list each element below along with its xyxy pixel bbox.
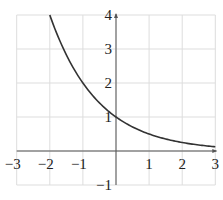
x-tick-label: −1: [71, 156, 87, 172]
y-axis-tick-labels: 4321−1: [96, 7, 112, 193]
x-axis-tick-labels: −3−2−1123: [5, 156, 219, 172]
function-curve: [50, 15, 216, 147]
y-tick-label: 2: [105, 75, 113, 91]
x-tick-label: 1: [145, 156, 153, 172]
x-tick-label: 3: [212, 156, 220, 172]
curve: [50, 15, 216, 147]
x-tick-label: −3: [5, 156, 21, 172]
y-tick-label: 1: [105, 109, 113, 125]
x-tick-label: 2: [178, 156, 186, 172]
exponential-decay-plot: −3−2−1123 4321−1: [0, 0, 223, 200]
y-tick-label: 3: [105, 41, 113, 57]
x-tick-label: −2: [38, 156, 54, 172]
y-tick-label: 4: [105, 7, 113, 23]
y-tick-label: −1: [96, 177, 112, 193]
